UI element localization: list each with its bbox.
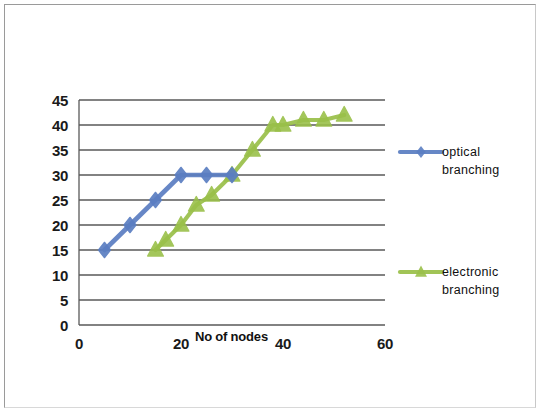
y-tick-label-30: 30	[38, 168, 68, 183]
y-tick-label-45: 45	[38, 93, 68, 108]
legend-label-electronic: electronic branching	[442, 263, 534, 299]
legend-label-optical-line2: branching	[442, 163, 500, 177]
y-tick-label-20: 20	[38, 218, 68, 233]
legend-label-electronic-line2: branching	[442, 283, 500, 297]
y-tick-label-5: 5	[38, 293, 68, 308]
legend-item-optical-branching[interactable]: optical branching	[398, 143, 534, 179]
legend-swatch-optical	[398, 145, 442, 159]
data-point-optical-4	[201, 168, 213, 183]
y-tick-label-0: 0	[38, 318, 68, 333]
legend-label-optical: optical branching	[442, 143, 534, 179]
y-tick-label-35: 35	[38, 143, 68, 158]
y-tick-label-10: 10	[38, 268, 68, 283]
plot-svg	[0, 0, 542, 418]
gridlines-group	[79, 100, 385, 325]
data-point-electronic-11	[336, 107, 352, 122]
legend-item-electronic-branching[interactable]: electronic branching	[398, 263, 534, 299]
x-tick-label-40: 40	[263, 336, 303, 351]
x-tick-label-60: 60	[365, 336, 405, 351]
y-tick-label-40: 40	[38, 118, 68, 133]
series-electronic-branching	[148, 107, 352, 257]
y-tick-label-25: 25	[38, 193, 68, 208]
legend-label-electronic-line1: electronic	[442, 265, 499, 279]
chart-screenshot: 051015202530354045 0204060 No of nodes o…	[0, 0, 542, 418]
chart-canvas: 051015202530354045 0204060 No of nodes o…	[0, 0, 542, 418]
legend-swatch-electronic	[398, 265, 442, 279]
legend-label-optical-line1: optical	[442, 145, 480, 159]
x-axis-title: No of nodes	[195, 330, 268, 343]
y-tick-label-15: 15	[38, 243, 68, 258]
x-tick-label-0: 0	[59, 336, 99, 351]
